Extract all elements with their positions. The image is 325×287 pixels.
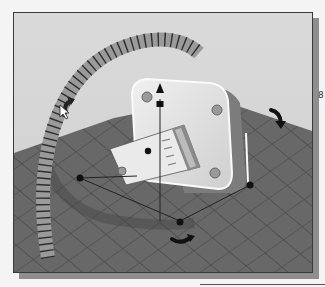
corner-handle[interactable] — [77, 175, 84, 182]
box-hole — [210, 168, 220, 178]
corner-handle[interactable] — [177, 219, 184, 226]
divider-line — [200, 284, 325, 285]
axis-handle[interactable] — [157, 101, 164, 107]
margin-glyph: 8 — [318, 91, 324, 100]
corner-handle[interactable] — [247, 182, 254, 189]
box-hole — [142, 92, 152, 102]
center-handle[interactable] — [145, 148, 151, 154]
3d-viewport[interactable] — [13, 12, 313, 273]
box-hole — [212, 105, 222, 115]
scene-canvas[interactable] — [14, 13, 312, 272]
